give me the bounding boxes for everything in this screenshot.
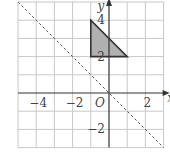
- x-tick-label: −2: [66, 96, 84, 110]
- coordinate-grid-diagram: −4−2242−2Oxy: [0, 0, 170, 152]
- y-tick-label: 4: [97, 13, 105, 27]
- origin-label: O: [95, 96, 105, 110]
- x-axis-label: x: [167, 91, 170, 105]
- y-tick-label: 2: [97, 50, 105, 64]
- y-axis-arrow-icon: [106, 0, 112, 6]
- x-tick-label: 2: [144, 96, 152, 110]
- x-tick-label: −4: [29, 96, 47, 110]
- y-tick-label: −2: [87, 122, 105, 136]
- y-axis-label: y: [97, 0, 105, 13]
